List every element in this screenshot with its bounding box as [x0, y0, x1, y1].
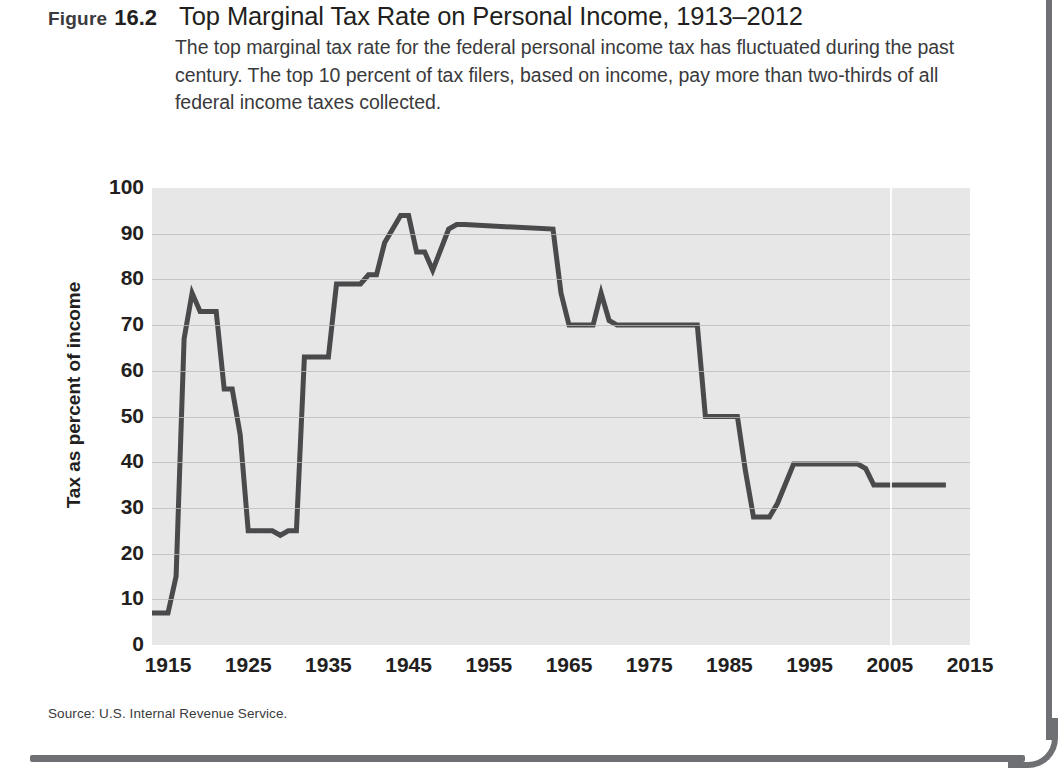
- y-axis-label: Tax as percent of income: [63, 245, 85, 545]
- y-tick-80: 80: [84, 266, 144, 290]
- x-tick-1935: 1935: [283, 653, 373, 677]
- figure-description: The top marginal tax rate for the federa…: [175, 34, 985, 117]
- gridline-y-50: [152, 417, 970, 418]
- figure-number: 16.2: [114, 5, 157, 31]
- page-rule-bottom: [30, 755, 1025, 762]
- figure-label: Figure: [48, 8, 107, 30]
- gridline-y-10: [152, 599, 970, 600]
- x-axis-ticks: 1915192519351945195519651975198519952005…: [152, 653, 970, 685]
- gridline-y-40: [152, 462, 970, 463]
- y-tick-10: 10: [84, 586, 144, 610]
- y-tick-100: 100: [84, 175, 144, 199]
- x-tick-1915: 1915: [123, 653, 213, 677]
- gridline-y-90: [152, 234, 970, 235]
- x-tick-1965: 1965: [524, 653, 614, 677]
- figure-label-word: Figure: [48, 8, 107, 29]
- y-tick-50: 50: [84, 404, 144, 428]
- y-axis-label-box: Tax as percent of income: [52, 188, 80, 645]
- y-tick-60: 60: [84, 358, 144, 382]
- y-tick-40: 40: [84, 449, 144, 473]
- plot-area: [152, 188, 970, 645]
- x-tick-1945: 1945: [364, 653, 454, 677]
- gridline-y-80: [152, 279, 970, 280]
- x-tick-1975: 1975: [604, 653, 694, 677]
- figure-title-line: Figure 16.2 Top Marginal Tax Rate on Per…: [48, 2, 1033, 31]
- y-tick-70: 70: [84, 312, 144, 336]
- gridline-x-2005: [890, 188, 892, 645]
- y-axis-ticks: 0102030405060708090100: [82, 188, 144, 645]
- gridline-y-30: [152, 508, 970, 509]
- x-tick-1925: 1925: [203, 653, 293, 677]
- x-tick-1955: 1955: [444, 653, 534, 677]
- gridline-y-20: [152, 554, 970, 555]
- chart: 0102030405060708090100 Tax as percent of…: [0, 160, 1064, 720]
- x-tick-2005: 2005: [845, 653, 935, 677]
- x-tick-1995: 1995: [765, 653, 855, 677]
- gridline-y-70: [152, 325, 970, 326]
- page-rule-right: [1046, 0, 1052, 740]
- y-tick-90: 90: [84, 221, 144, 245]
- figure-header: Figure 16.2 Top Marginal Tax Rate on Per…: [48, 2, 1033, 31]
- page-rule-corner: [1008, 718, 1058, 768]
- y-tick-30: 30: [84, 495, 144, 519]
- source-note: Source: U.S. Internal Revenue Service.: [48, 706, 287, 721]
- x-tick-2015: 2015: [925, 653, 1015, 677]
- y-tick-20: 20: [84, 541, 144, 565]
- figure-title: Top Marginal Tax Rate on Personal Income…: [179, 2, 803, 31]
- gridline-y-60: [152, 371, 970, 372]
- x-tick-1985: 1985: [684, 653, 774, 677]
- figure-page: Figure 16.2 Top Marginal Tax Rate on Per…: [0, 0, 1064, 780]
